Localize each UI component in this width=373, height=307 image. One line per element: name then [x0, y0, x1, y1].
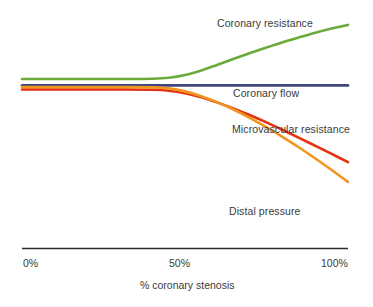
series-label-distal-pressure: Distal pressure	[229, 205, 301, 217]
x-tick-label-0: 0%	[23, 257, 38, 269]
series-line-coronary-resistance	[22, 25, 348, 79]
series-label-coronary-resistance: Coronary resistance	[217, 17, 313, 29]
chart-figure: Coronary resistance Coronary flow Microv…	[0, 0, 373, 307]
series-label-microvascular-resistance: Microvascular resistance	[232, 123, 350, 135]
x-tick-label-100: 100%	[321, 257, 348, 269]
series-paths	[22, 25, 348, 182]
series-label-coronary-flow: Coronary flow	[233, 87, 299, 99]
x-axis-title: % coronary stenosis	[140, 279, 235, 291]
x-tick-label-50: 50%	[169, 257, 190, 269]
